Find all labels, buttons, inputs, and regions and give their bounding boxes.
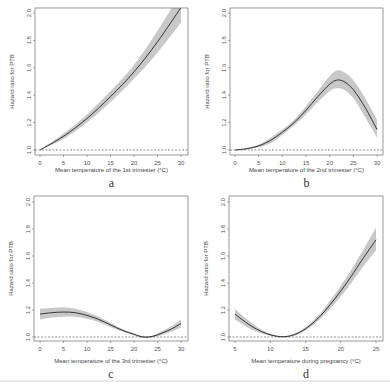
- y-tick-label: 1.2: [25, 305, 31, 314]
- y-tick-label: 2.0: [26, 8, 32, 17]
- x-axis-title: Mean temperature during pregnancy (°C): [251, 358, 360, 364]
- panel-c: 1.01.21.41.61.82.0051015202530Mean tempe…: [8, 196, 188, 381]
- x-tick-label: 0: [38, 346, 42, 352]
- x-tick-label: 5: [257, 160, 261, 166]
- y-axis-title: Hazard ratio for PTB: [203, 241, 209, 296]
- y-tick-label: 1.0: [221, 145, 227, 154]
- x-tick-label: 10: [84, 160, 91, 166]
- y-tick-label: 1.6: [220, 251, 226, 260]
- y-tick-label: 2.0: [221, 8, 227, 17]
- y-tick-label: 1.2: [220, 305, 226, 314]
- x-axis-title: Mean temperature of the 2nd trimester (°…: [249, 167, 364, 173]
- x-axis-title: Mean temperature of the 3rd trimester (°…: [54, 358, 167, 364]
- plot-frame: [230, 8, 383, 155]
- x-tick-label: 5: [233, 346, 237, 352]
- y-tick-label: 1.8: [26, 36, 32, 45]
- y-axis-title: Hazard ratio for PTB: [204, 54, 210, 109]
- y-tick-label: 1.6: [25, 251, 31, 260]
- y-tick-label: 1.2: [221, 118, 227, 127]
- x-tick-label: 15: [107, 160, 114, 166]
- y-tick-label: 1.0: [25, 332, 31, 341]
- x-tick-label: 30: [374, 160, 381, 166]
- y-tick-label: 1.6: [26, 63, 32, 72]
- y-tick-label: 1.8: [221, 36, 227, 45]
- y-tick-label: 1.0: [26, 145, 32, 154]
- panel-letter: c: [108, 367, 113, 381]
- panel-b: 1.01.21.41.61.82.0051015202530Mean tempe…: [204, 8, 383, 190]
- x-tick-label: 20: [131, 160, 138, 166]
- confidence-band: [235, 228, 376, 338]
- y-axis-title: Hazard ratio for PTB: [9, 54, 15, 109]
- x-tick-label: 0: [233, 160, 237, 166]
- y-axis-title: Hazard ratio for PTB: [8, 241, 14, 296]
- x-tick-label: 15: [302, 346, 309, 352]
- panel-letter: a: [109, 176, 115, 190]
- x-tick-label: 20: [131, 346, 138, 352]
- panel-letter: b: [304, 176, 310, 190]
- x-tick-label: 25: [373, 346, 380, 352]
- plot-frame: [34, 196, 188, 341]
- panel-letter: d: [303, 367, 309, 381]
- y-tick-label: 1.4: [25, 278, 31, 287]
- panel-a: 1.01.21.41.61.82.0051015202530Mean tempe…: [9, 0, 188, 190]
- y-tick-label: 1.8: [220, 224, 226, 233]
- y-tick-label: 2.0: [25, 197, 31, 206]
- x-tick-label: 25: [350, 160, 357, 166]
- figure: 1.01.21.41.61.82.0051015202530Mean tempe…: [0, 0, 390, 385]
- x-tick-label: 25: [154, 160, 161, 166]
- x-tick-label: 15: [107, 346, 114, 352]
- panel-d: 1.01.21.41.61.82.0510152025Mean temperat…: [203, 196, 383, 381]
- x-tick-label: 5: [62, 346, 66, 352]
- x-tick-label: 20: [326, 160, 333, 166]
- x-tick-label: 30: [178, 346, 185, 352]
- x-tick-label: 10: [279, 160, 286, 166]
- y-tick-label: 1.4: [26, 90, 32, 99]
- confidence-band: [40, 0, 181, 150]
- x-tick-label: 5: [62, 160, 66, 166]
- x-tick-label: 0: [38, 160, 42, 166]
- hazard-ratio-curve: [235, 240, 376, 337]
- y-tick-label: 1.8: [25, 224, 31, 233]
- y-tick-label: 1.4: [220, 278, 226, 287]
- x-tick-label: 20: [337, 346, 344, 352]
- x-tick-label: 10: [84, 346, 91, 352]
- y-tick-label: 2.0: [220, 197, 226, 206]
- x-tick-label: 30: [178, 160, 185, 166]
- y-tick-label: 1.0: [220, 332, 226, 341]
- y-tick-label: 1.2: [26, 118, 32, 127]
- y-tick-label: 1.6: [221, 63, 227, 72]
- x-axis-title: Mean temperature of the 1st trimester (°…: [55, 167, 168, 173]
- x-tick-label: 10: [267, 346, 274, 352]
- y-tick-label: 1.4: [221, 90, 227, 99]
- x-tick-label: 25: [154, 346, 161, 352]
- x-tick-label: 15: [303, 160, 310, 166]
